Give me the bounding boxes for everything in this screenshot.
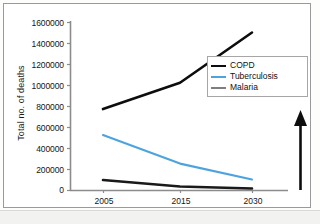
legend-swatch-tuberculosis-icon [211, 76, 226, 78]
y-tick-label-1200000: 1200000 [6, 60, 64, 70]
y-tick-label-1600000: 1600000 [6, 18, 64, 28]
x-tick-label-2015: 2015 [162, 196, 200, 206]
legend-label-copd: COPD [230, 60, 255, 71]
y-tick-label-800000: 800000 [6, 102, 64, 112]
chart-legend: COPD Tuberculosis Malaria [207, 56, 308, 97]
legend-swatch-copd-icon [211, 65, 226, 67]
y-tick-label-0: 0 [6, 185, 64, 195]
x-tick-label-2005: 2005 [85, 196, 123, 206]
legend-item-malaria[interactable]: Malaria [211, 82, 303, 93]
x-tick-label-2030: 2030 [234, 196, 272, 206]
y-tick-label-400000: 400000 [6, 144, 64, 154]
series-line-malaria [103, 180, 252, 189]
y-axis-ticks [67, 23, 70, 191]
y-tick-label-600000: 600000 [6, 123, 64, 133]
legend-item-copd[interactable]: COPD [211, 60, 303, 71]
upward-trend-arrow-icon [294, 110, 307, 190]
y-tick-label-1000000: 1000000 [6, 81, 64, 91]
y-tick-label-1400000: 1400000 [6, 39, 64, 49]
y-tick-label-200000: 200000 [6, 165, 64, 175]
legend-item-tuberculosis[interactable]: Tuberculosis [211, 71, 303, 82]
line-chart: Total no. of deaths 1600000 1400000 1200… [0, 0, 320, 224]
chart-page: Total no. of deaths 1600000 1400000 1200… [0, 0, 320, 224]
series-line-tuberculosis [103, 135, 252, 180]
legend-label-tuberculosis: Tuberculosis [230, 71, 278, 82]
legend-label-malaria: Malaria [230, 82, 258, 93]
legend-swatch-malaria-icon [211, 87, 226, 89]
